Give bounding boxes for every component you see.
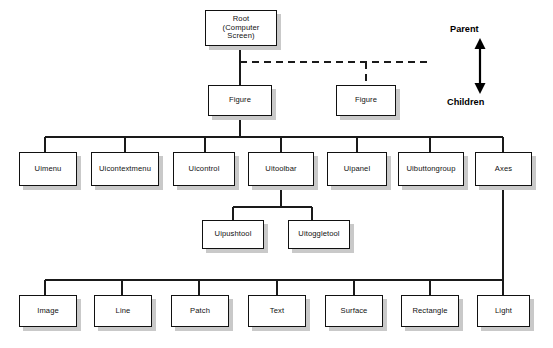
node-uitoggletool-label: Uitoggletool — [296, 230, 341, 239]
node-figure-2-label: Figure — [353, 96, 379, 105]
node-uitoggletool[interactable]: Uitoggletool — [288, 220, 350, 249]
node-uicontextmenu-label: Uicontextmenu — [97, 165, 153, 174]
node-surface-label: Surface — [339, 307, 370, 316]
node-figure-1[interactable]: Figure — [208, 85, 272, 116]
node-uitoolbar-label: Uitoolbar — [263, 165, 298, 174]
double-headed-vertical-arrow-icon — [460, 38, 500, 94]
node-root-label: Root (Computer Screen) — [206, 15, 276, 42]
node-uipanel[interactable]: Uipanel — [327, 152, 387, 186]
legend-children-label: Children — [447, 97, 484, 107]
node-figure-2[interactable]: Figure — [336, 85, 396, 116]
node-root[interactable]: Root (Computer Screen) — [205, 10, 277, 46]
node-uipushtool[interactable]: Uipushtool — [202, 220, 264, 249]
node-uibuttongroup-label: Uibuttongroup — [404, 165, 457, 174]
node-patch[interactable]: Patch — [171, 295, 229, 327]
node-light-label: Light — [493, 307, 514, 316]
node-rectangle[interactable]: Rectangle — [401, 295, 459, 327]
diagram-canvas: Root (Computer Screen) Figure Figure Uim… — [0, 0, 553, 348]
node-uipanel-label: Uipanel — [342, 165, 372, 174]
node-surface[interactable]: Surface — [325, 295, 383, 327]
node-text-label: Text — [268, 307, 286, 316]
node-uitoolbar[interactable]: Uitoolbar — [248, 152, 314, 186]
node-uibuttongroup[interactable]: Uibuttongroup — [398, 152, 464, 186]
node-patch-label: Patch — [188, 307, 212, 316]
node-uimenu-label: Uimenu — [33, 165, 64, 174]
node-text[interactable]: Text — [248, 295, 306, 327]
node-image-label: Image — [35, 307, 61, 316]
node-uicontrol-label: Uicontrol — [187, 165, 222, 174]
node-uimenu[interactable]: Uimenu — [19, 152, 77, 186]
node-image[interactable]: Image — [19, 295, 77, 327]
node-light[interactable]: Light — [477, 295, 530, 327]
legend-parent-label: Parent — [450, 24, 479, 34]
node-rectangle-label: Rectangle — [410, 307, 449, 316]
node-axes[interactable]: Axes — [475, 152, 532, 186]
node-line-label: Line — [114, 307, 133, 316]
node-uicontextmenu[interactable]: Uicontextmenu — [91, 152, 159, 186]
node-line[interactable]: Line — [94, 295, 152, 327]
node-uicontrol[interactable]: Uicontrol — [173, 152, 235, 186]
node-figure-1-label: Figure — [227, 96, 253, 105]
node-uipushtool-label: Uipushtool — [213, 230, 254, 239]
node-axes-label: Axes — [493, 165, 514, 174]
